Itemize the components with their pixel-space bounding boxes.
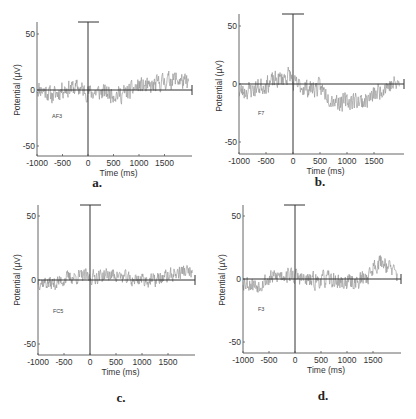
y-axis-title: Potential (µV) (214, 60, 224, 112)
y-tick-label: -50 (24, 339, 37, 349)
x-tick-label: 1000 (133, 357, 152, 367)
x-tick-label: 500 (106, 158, 120, 168)
x-tick-label: -500 (257, 156, 274, 166)
eeg-trace-fc5 (38, 265, 192, 290)
eeg-trace-af3 (37, 71, 188, 104)
x-tick-label: 1000 (338, 355, 357, 365)
x-tick-label: 0 (293, 355, 298, 365)
y-tick-label: 0 (232, 79, 237, 89)
panel-letter: a. (92, 175, 102, 190)
y-tick-label: -50 (229, 337, 242, 347)
x-tick-label: -500 (55, 357, 72, 367)
x-axis-title: Time (ms) (100, 168, 138, 178)
channel-label: F3 (258, 306, 264, 312)
y-axis-title: Potential (µV) (12, 254, 22, 306)
y-tick-label: -50 (225, 137, 238, 147)
x-tick-label: 500 (314, 355, 328, 365)
y-axis-title: Potential (µV) (12, 64, 22, 116)
x-tick-label: 0 (86, 158, 91, 168)
x-axis-title: Time (ms) (102, 367, 140, 377)
y-axis-title: Potential (µV) (217, 254, 227, 306)
x-tick-label: 1000 (130, 158, 149, 168)
y-tick-label: 50 (232, 211, 242, 221)
y-tick-label: 0 (30, 85, 35, 95)
x-tick-label: 0 (88, 357, 93, 367)
y-tick-label: 0 (236, 274, 241, 284)
x-tick-label: -1000 (26, 158, 48, 168)
x-tick-label: -500 (54, 158, 71, 168)
x-tick-label: -1000 (27, 357, 49, 367)
panel-d-chart: -1000-500050010001500500-50Time (ms)Pote… (217, 205, 401, 403)
panel-letter: b. (315, 174, 325, 189)
x-tick-label: 500 (109, 357, 123, 367)
panel-c-chart: -1000-500050010001500500-50Time (ms)Pote… (12, 205, 195, 405)
y-tick-label: 0 (31, 275, 36, 285)
x-tick-label: 1500 (159, 357, 178, 367)
x-tick-label: 0 (291, 156, 296, 166)
x-axis-title: Time (ms) (307, 365, 345, 375)
x-tick-label: -1000 (232, 355, 254, 365)
x-tick-label: 1500 (365, 156, 384, 166)
channel-label: FC5 (53, 308, 63, 314)
x-tick-label: 500 (313, 156, 327, 166)
panel-b-chart: -1000-500050010001500500-50Time (ms)Pote… (214, 14, 404, 189)
panel-letter: c. (116, 390, 125, 405)
y-tick-label: 50 (26, 29, 36, 39)
panel-a-chart: -1000-500050010001500500-50Time (ms)Pote… (12, 22, 192, 190)
y-tick-label: 50 (228, 21, 238, 31)
x-axis-title: Time (ms) (307, 166, 345, 176)
y-tick-label: 50 (27, 211, 37, 221)
y-tick-label: -50 (23, 141, 36, 151)
eeg-trace-f3 (243, 255, 397, 292)
eeg-trace-f7 (239, 67, 399, 112)
x-tick-label: 1000 (338, 156, 357, 166)
channel-label: AF3 (52, 113, 62, 119)
panel-letter: d. (318, 388, 328, 403)
channel-label: F7 (258, 110, 264, 116)
x-tick-label: 1500 (155, 158, 174, 168)
eeg-figure: -1000-500050010001500500-50Time (ms)Pote… (0, 0, 416, 419)
x-tick-label: -500 (260, 355, 277, 365)
x-tick-label: -1000 (228, 156, 250, 166)
x-tick-label: 1500 (364, 355, 383, 365)
